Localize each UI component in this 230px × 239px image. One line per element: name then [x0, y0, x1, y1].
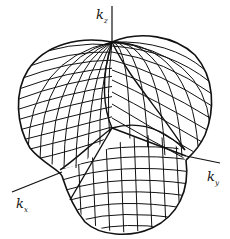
kx-symbol: k: [16, 196, 24, 211]
kz-subscript: z: [104, 17, 108, 25]
kx-subscript: x: [24, 206, 28, 214]
ky-symbol: k: [207, 169, 215, 184]
ky-subscript: y: [215, 179, 219, 187]
ky-axis-line: [186, 156, 220, 163]
kz-symbol: k: [96, 7, 104, 22]
ky-axis-label: ky: [207, 170, 219, 187]
axes: [12, 6, 220, 200]
kx-axis-label: kx: [16, 197, 28, 214]
kx-axis-line: [12, 172, 62, 192]
bottom-lobe-grid: [55, 134, 192, 238]
kz-axis-label: kz: [96, 8, 108, 25]
wireframe-surface: [0, 0, 230, 239]
surface-outline: [18, 36, 211, 234]
wireframe-figure: kz kx ky: [0, 0, 230, 239]
